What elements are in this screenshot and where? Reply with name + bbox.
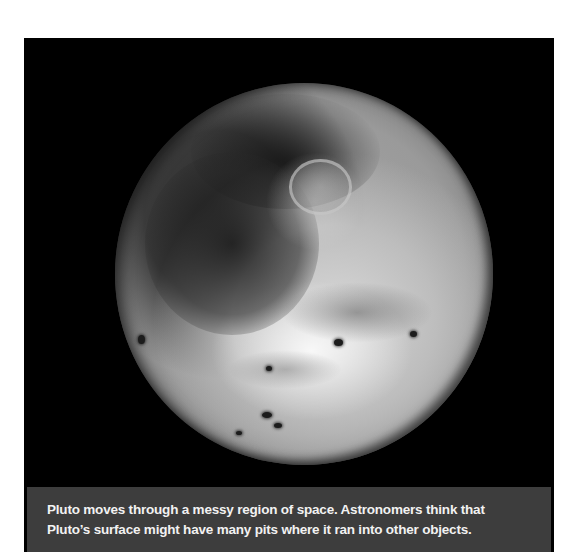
surface-pit xyxy=(410,331,417,337)
caption-line-1: Pluto moves through a messy region of sp… xyxy=(47,500,527,520)
caption-text: Pluto moves through a messy region of sp… xyxy=(47,500,527,540)
figure-frame: Pluto moves through a messy region of sp… xyxy=(24,38,554,552)
crater-ring xyxy=(289,159,352,215)
surface-pit xyxy=(262,412,272,418)
caption-line-2: Pluto’s surface might have many pits whe… xyxy=(47,520,527,540)
surface-pit xyxy=(334,339,343,346)
grey-streak xyxy=(228,350,341,388)
space-background xyxy=(24,38,554,487)
surface-pit xyxy=(236,431,242,435)
pluto-image xyxy=(115,83,493,465)
surface-pit xyxy=(274,423,282,428)
surface-pit xyxy=(138,335,145,344)
caption-bar: Pluto moves through a messy region of sp… xyxy=(27,487,551,552)
surface-pit xyxy=(266,366,272,371)
